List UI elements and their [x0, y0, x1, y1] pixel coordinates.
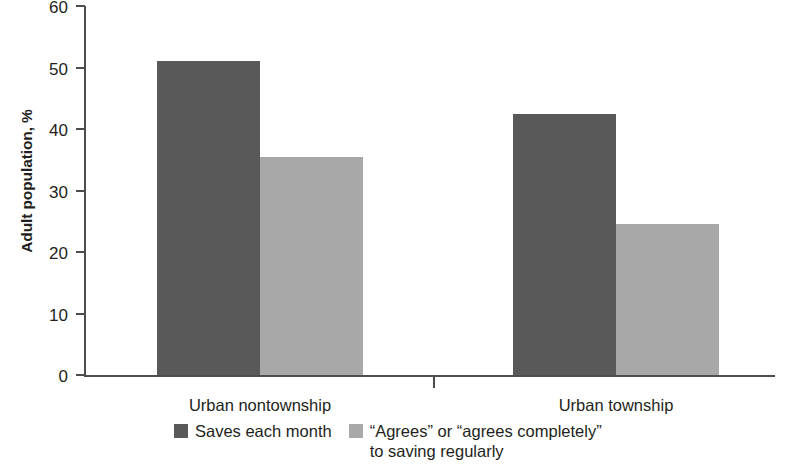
- y-axis-tick-label: 0: [59, 367, 68, 387]
- legend-item-agrees-to-saving-regularly: “Agrees” or “agrees completely” to savin…: [349, 421, 602, 461]
- bar-chart: Adult population, % 6050403020100 Urban …: [0, 0, 790, 476]
- bar: [157, 61, 260, 375]
- y-axis-tick-label: 30: [49, 183, 68, 203]
- legend: Saves each month “Agrees” or “agrees com…: [174, 421, 602, 461]
- legend-swatch-icon-dark: [174, 424, 188, 438]
- bar: [616, 224, 719, 375]
- y-axis-title: Adult population, %: [18, 76, 36, 286]
- x-axis-category-label: Urban nontownship: [110, 396, 410, 415]
- x-axis-separator-tick: [433, 377, 435, 388]
- y-axis-tick-label: 40: [49, 121, 68, 141]
- y-axis-tick: 30: [76, 190, 85, 192]
- y-axis-tick-label: 60: [49, 0, 68, 18]
- legend-label-saves-each-month: Saves each month: [195, 421, 332, 441]
- plot-area: 6050403020100 Urban nontownshipUrban tow…: [84, 6, 775, 377]
- x-axis-category-label: Urban township: [466, 396, 766, 415]
- legend-swatch-icon-light: [349, 424, 363, 438]
- y-axis-tick: 50: [76, 67, 85, 69]
- legend-label-agrees-to-saving-regularly: “Agrees” or “agrees completely” to savin…: [370, 421, 602, 461]
- y-axis-line: [84, 6, 86, 377]
- y-axis-tick-label: 20: [49, 244, 68, 264]
- x-axis-line: [84, 375, 775, 377]
- y-axis-tick: 20: [76, 251, 85, 253]
- y-axis-tick: 10: [76, 313, 85, 315]
- y-axis-tick-label: 10: [49, 306, 68, 326]
- y-axis-tick-label: 50: [49, 60, 68, 80]
- y-axis-tick: 60: [76, 5, 85, 7]
- bar: [260, 157, 363, 375]
- bar: [513, 114, 616, 375]
- y-axis-tick: 0: [76, 374, 85, 376]
- legend-item-saves-each-month: Saves each month: [174, 421, 332, 441]
- y-axis-tick: 40: [76, 128, 85, 130]
